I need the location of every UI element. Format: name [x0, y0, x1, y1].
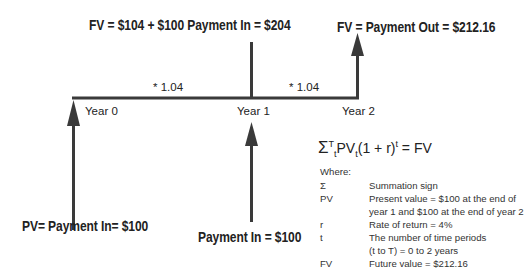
- legend-row: ΣSummation sign: [320, 179, 524, 192]
- formula-legend: Where: ΣSummation sign PVPresent value =…: [320, 165, 524, 270]
- year-0-label: Year 0: [85, 105, 118, 117]
- legend-row: PVPresent value = $100 at the end of: [320, 192, 524, 205]
- payment-in-label: Payment In = $100: [198, 229, 301, 245]
- legend-row: year 1 and $100 at the end of year 2: [320, 205, 524, 218]
- sigma-symbol: Σ: [318, 138, 329, 157]
- legend-row: rRate of return = 4%: [320, 218, 524, 231]
- year-2-label: Year 2: [342, 105, 375, 117]
- growth-label-2: * 1.04: [289, 81, 319, 93]
- year-1-label: Year 1: [237, 105, 270, 117]
- legend-row: FVFuture value = $212.16: [320, 257, 524, 270]
- pv-payment-in-label: PV= Payment In= $100: [22, 218, 148, 234]
- arrow-up-icon-year0: [67, 100, 80, 230]
- legend-row: (t to T) = 0 to 2 years: [320, 244, 524, 257]
- legend-heading: Where:: [320, 165, 524, 178]
- arrow-up-icon-year2: [351, 33, 364, 99]
- fv-year2-label: FV = Payment Out = $212.16: [337, 19, 495, 35]
- fv-formula: ΣTtPVt(1 + r)t = FV: [318, 138, 432, 159]
- growth-label-1: * 1.04: [153, 81, 183, 93]
- legend-row: tThe number of time periods: [320, 231, 524, 244]
- arrow-up-icon-year1: [245, 122, 258, 222]
- fv-year1-label: FV = $104 + $100 Payment In = $204: [89, 17, 291, 33]
